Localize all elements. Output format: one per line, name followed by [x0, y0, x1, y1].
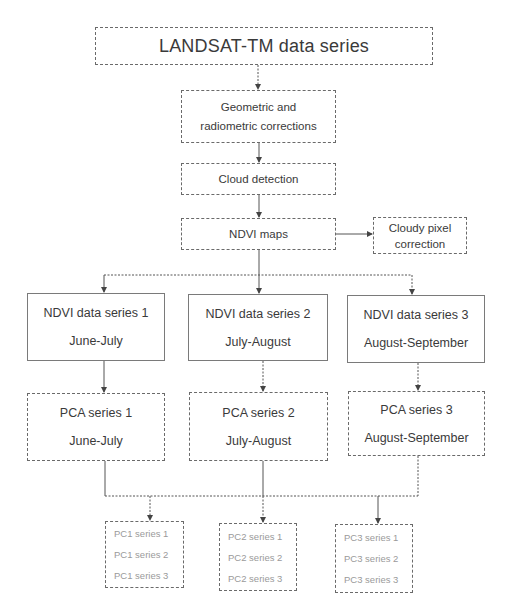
cloudy-pixel-correction-line2: correction [395, 236, 446, 252]
ndvi-series-2-box: NDVI data series 2 July-August [188, 294, 328, 361]
landsat-data-series-label: LANDSAT-TM data series [159, 36, 369, 57]
cloudy-pixel-correction-line1: Cloudy pixel [389, 220, 452, 236]
pc1-outputs-box: PC1 series 1 PC1 series 2 PC1 series 3 [105, 521, 184, 588]
pca-series-2-title: PCA series 2 [222, 406, 294, 420]
pc2-outputs-box: PC2 series 1 PC2 series 2 PC2 series 3 [219, 523, 297, 591]
landsat-data-series-box: LANDSAT-TM data series [95, 27, 433, 65]
corrections-box: Geometric and radiometric corrections [181, 90, 336, 143]
pc1-series-1: PC1 series 1 [114, 528, 168, 539]
pca-series-1-title: PCA series 1 [60, 406, 132, 420]
corrections-label-line1: Geometric and [221, 98, 296, 117]
ndvi-series-1-period: June-July [69, 334, 123, 348]
pca-series-1-box: PCA series 1 June-July [27, 393, 165, 461]
corrections-label-line2: radiometric corrections [200, 117, 316, 136]
pc2-series-2: PC2 series 2 [228, 552, 282, 563]
pc2-series-3: PC2 series 3 [228, 573, 282, 584]
pc3-series-2: PC3 series 2 [344, 553, 398, 564]
pca-series-1-period: June-July [69, 434, 123, 448]
ndvi-maps-label: NDVI maps [229, 225, 288, 244]
ndvi-series-3-period: August-September [364, 336, 468, 350]
pca-series-2-box: PCA series 2 July-August [189, 392, 328, 461]
ndvi-series-3-title: NDVI data series 3 [364, 308, 469, 322]
pc1-series-2: PC1 series 2 [114, 549, 168, 560]
cloud-detection-box: Cloud detection [181, 163, 336, 195]
ndvi-series-2-title: NDVI data series 2 [206, 307, 311, 321]
pca-series-3-title: PCA series 3 [380, 403, 452, 417]
pc3-series-3: PC3 series 3 [344, 574, 398, 585]
cloudy-pixel-correction-box: Cloudy pixel correction [373, 217, 467, 254]
pca-series-3-box: PCA series 3 August-September [348, 391, 485, 456]
cloud-detection-label: Cloud detection [219, 170, 299, 189]
pc1-series-3: PC1 series 3 [114, 570, 168, 581]
flowchart: LANDSAT-TM data series Geometric and rad… [0, 0, 509, 612]
pc3-outputs-box: PC3 series 1 PC3 series 2 PC3 series 3 [335, 524, 413, 593]
ndvi-series-1-box: NDVI data series 1 June-July [27, 293, 165, 361]
pc3-series-1: PC3 series 1 [344, 532, 398, 543]
pca-series-2-period: July-August [226, 434, 291, 448]
ndvi-series-1-title: NDVI data series 1 [44, 306, 149, 320]
ndvi-series-2-period: July-August [225, 335, 290, 349]
pca-series-3-period: August-September [364, 431, 468, 445]
ndvi-maps-box: NDVI maps [181, 218, 336, 250]
ndvi-series-3-box: NDVI data series 3 August-September [347, 295, 485, 363]
pc2-series-1: PC2 series 1 [228, 531, 282, 542]
